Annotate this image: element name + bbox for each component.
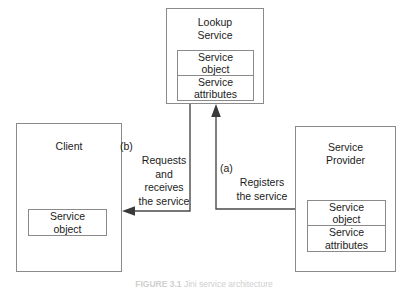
node-lookup-service[interactable]: Lookup Service Service object Service at… <box>166 8 264 104</box>
edge-a-tag: (a) <box>220 162 233 175</box>
lookup-service-title: Lookup Service <box>167 16 263 41</box>
edge-a-label: Registers the service <box>224 176 300 203</box>
service-provider-service-attributes-label: Service attributes <box>325 226 368 251</box>
lookup-service-service-attributes-label: Service attributes <box>194 76 237 101</box>
service-provider-service-attributes[interactable]: Service attributes <box>307 225 386 252</box>
node-service-provider[interactable]: Service Provider Service object Service … <box>295 126 396 272</box>
edge-b-label: Requests and receives the service <box>128 154 200 208</box>
node-client[interactable]: Client Service object <box>16 123 122 272</box>
lookup-service-service-object[interactable]: Service object <box>177 50 254 76</box>
service-provider-title: Service Provider <box>296 141 395 166</box>
figure-caption-text: Jini service architecture <box>184 279 273 289</box>
lookup-service-service-attributes[interactable]: Service attributes <box>177 75 254 101</box>
figure-container: Lookup Service Service object Service at… <box>0 0 408 289</box>
service-provider-service-object[interactable]: Service object <box>307 200 386 226</box>
client-title: Client <box>17 140 121 153</box>
edge-a-arrowhead <box>211 104 221 117</box>
client-service-object[interactable]: Service object <box>28 209 107 236</box>
service-provider-service-object-label: Service object <box>329 201 364 226</box>
figure-caption: FIGURE 3.1 Jini service architecture <box>0 279 408 289</box>
edge-b-tag: (b) <box>120 140 133 153</box>
lookup-service-service-object-label: Service object <box>198 51 233 76</box>
client-service-object-label: Service object <box>50 210 85 235</box>
figure-caption-label: FIGURE 3.1 <box>135 279 181 289</box>
